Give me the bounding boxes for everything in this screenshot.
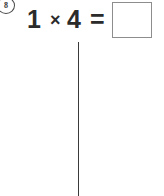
equation-row: 1 × 4 = <box>0 0 164 42</box>
vertical-divider <box>78 42 79 196</box>
answer-input-box[interactable] <box>112 2 152 38</box>
factor-one-label: 1 <box>27 7 41 32</box>
equals-sign-label: = <box>90 7 105 32</box>
multiplication-icon: × <box>50 11 61 29</box>
worksheet-problem: 8 1 × 4 = <box>0 0 164 196</box>
factor-two-label: 4 <box>67 7 81 32</box>
